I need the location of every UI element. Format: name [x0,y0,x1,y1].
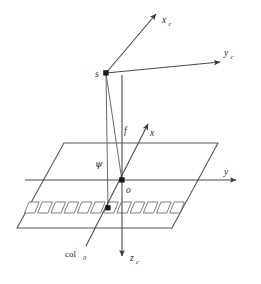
detector-cell [38,202,53,213]
axis-yc-label: y [223,48,229,58]
geometry-diagram: x c y c z c x y s o f ψ col 0 [0,0,261,284]
detector-cell [64,202,79,213]
axis-xc-subscript: c [169,20,172,27]
detector-array-subscript: 0 [83,254,87,261]
detector-cell [25,202,40,213]
axis-yc-line [106,62,220,73]
ray-s-to-detector [106,73,108,209]
detector-cell [170,202,185,213]
axis-zc-label: z [129,253,134,263]
projection-rays [106,73,122,209]
image-plane [17,143,218,228]
image-plane-outline [17,143,218,228]
perspective-center-label: s [95,69,99,79]
axis-xc-line [106,14,156,73]
axis-yc-subscript: c [231,53,234,60]
axis-y-label: y [223,167,229,177]
figure-root: x c y c z c x y s o f ψ col 0 [0,0,261,284]
axis-xc-label: x [161,15,167,25]
detector-cell [157,202,172,213]
axis-x-label: x [149,128,155,138]
detector-element-dot [105,205,110,210]
origin-dot [119,177,124,182]
origin-label: o [126,185,131,195]
detector-cell [143,202,158,213]
perspective-center-dot [103,70,108,75]
ray-s-to-origin [106,73,122,181]
angle-psi-label: ψ [95,158,103,169]
detector-cell [130,202,145,213]
axis-zc-subscript: c [136,258,139,265]
detector-cell [51,202,66,213]
diagram-labels: x c y c z c x y s o f ψ col 0 [65,15,234,265]
detector-cell [77,202,92,213]
detector-cell-array [25,202,185,213]
detector-cell [117,202,132,213]
focal-length-label: f [124,126,128,136]
detector-array-label: col [65,249,76,259]
